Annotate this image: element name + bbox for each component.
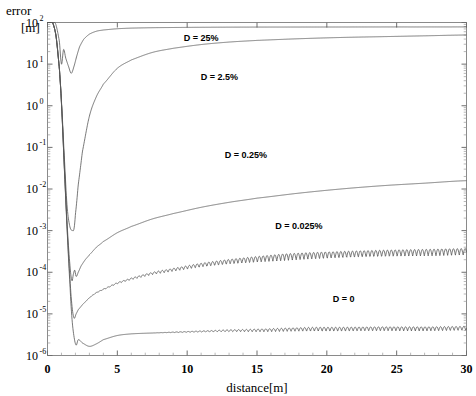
y-axis-tick-exponent: 2 [40,14,44,23]
x-axis-tick-label: 10 [181,362,193,376]
x-axis-tick-label: 25 [391,362,403,376]
curve-label: D = 0 [333,294,355,304]
x-axis-tick-label: 30 [461,362,473,376]
y-axis-tick-exponent: -6 [40,347,47,356]
x-axis-tick-label: 20 [321,362,333,376]
y-axis-tick-exponent: -5 [40,305,47,314]
y-axis-tick-exponent: -2 [40,180,47,189]
data-curve [48,23,467,231]
y-axis-tick-exponent: -3 [40,222,47,231]
plot-frame [48,23,467,356]
y-axis-tick-exponent: -1 [40,138,47,147]
y-axis-tick-label: 10 [26,16,38,30]
curve-label: D = 0.025% [275,221,322,231]
curve-label: D = 2.5% [201,72,238,82]
y-axis-tick-label: 10 [26,224,38,238]
x-axis-tick-label: 5 [114,362,120,376]
y-axis-tick-label: 10 [26,99,38,113]
curve-label: D = 0.25% [225,150,267,160]
y-axis-tick-label: 10 [26,265,38,279]
y-axis-tick-label: 10 [26,349,38,363]
data-curve [48,23,467,319]
y-axis-tick-exponent: 0 [40,97,44,106]
y-axis-tick-label: 10 [26,140,38,154]
y-axis-tick-label: 10 [26,182,38,196]
y-axis-tick-label: 10 [26,307,38,321]
x-axis-title: distance[m] [226,380,287,395]
x-axis-tick-label: 0 [45,362,51,376]
x-axis-tick-label: 15 [251,362,263,376]
plot-svg: 10210110010-110-210-310-410-510-60510152… [0,0,476,396]
y-axis-tick-exponent: 1 [40,55,44,64]
chart-figure: error [m] 10210110010-110-210-310-410-51… [0,0,476,396]
curve-label: D = 25% [184,33,219,43]
data-curve [48,23,467,74]
y-axis-tick-label: 10 [26,57,38,71]
y-axis-tick-exponent: -4 [40,263,47,272]
